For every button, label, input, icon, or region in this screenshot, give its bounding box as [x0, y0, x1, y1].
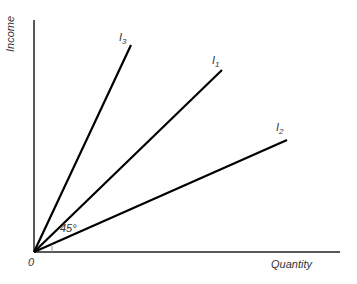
angle-label: 45° — [60, 222, 77, 234]
x-axis-label: Quantity — [271, 258, 312, 270]
y-axis-label: Income — [4, 16, 16, 52]
diagram-canvas — [0, 0, 357, 284]
label-i1: I1 — [212, 54, 220, 69]
label-i2: I2 — [276, 121, 284, 136]
line-i3 — [34, 45, 131, 252]
label-i3: I3 — [119, 31, 127, 46]
line-i2 — [34, 140, 287, 252]
origin-label: 0 — [28, 256, 34, 268]
